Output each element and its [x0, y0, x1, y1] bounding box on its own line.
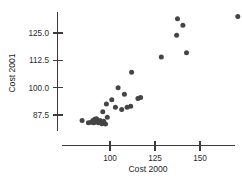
y-tick-label: 100.0 [29, 84, 50, 93]
data-point [100, 109, 105, 114]
data-point [105, 115, 110, 120]
y-tick-label: 125.0 [29, 29, 50, 38]
data-point [184, 50, 189, 55]
data-point [109, 97, 114, 102]
data-points-layer [80, 14, 241, 126]
x-axis-tick-labels: 100125150 [103, 154, 207, 163]
data-point [104, 102, 109, 107]
data-point [116, 85, 121, 90]
scatter-plot-figure: 87.5100.0112.5125.0 100125150 Cost 2000 … [0, 0, 242, 187]
data-point [129, 70, 134, 75]
x-axis: 100125150 [62, 141, 235, 164]
data-point [122, 92, 127, 97]
data-point [80, 118, 85, 123]
data-point [235, 14, 240, 19]
y-axis-title: Cost 2001 [7, 53, 17, 92]
y-tick-label: 112.5 [29, 56, 49, 65]
data-point [175, 16, 180, 21]
data-point [128, 104, 133, 109]
data-point [119, 107, 124, 112]
y-axis-tick-labels: 87.5100.0112.5125.0 [29, 29, 50, 120]
data-point [174, 33, 179, 38]
data-point [180, 23, 185, 28]
x-axis-title: Cost 2000 [128, 164, 167, 174]
data-point [159, 55, 164, 60]
data-point [103, 121, 108, 126]
y-axis: 87.5100.0112.5125.0 [29, 12, 63, 131]
x-tick-label: 125 [148, 154, 162, 163]
data-point [113, 105, 118, 110]
chart-canvas: 87.5100.0112.5125.0 100125150 Cost 2000 … [0, 0, 242, 187]
x-tick-label: 150 [193, 154, 207, 163]
data-point [138, 95, 143, 100]
x-tick-label: 100 [103, 154, 117, 163]
y-tick-label: 87.5 [33, 111, 49, 120]
